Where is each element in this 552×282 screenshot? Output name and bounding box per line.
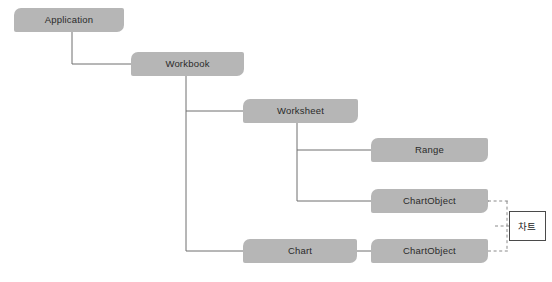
node-application[interactable]: Application — [14, 8, 124, 32]
node-range-label: Range — [415, 145, 444, 155]
node-application-label: Application — [45, 15, 94, 25]
node-workbook[interactable]: Workbook — [131, 52, 244, 76]
node-chart-label: Chart — [288, 246, 312, 256]
node-chartobject-1-label: ChartObject — [403, 196, 456, 206]
connector-application-workbook — [72, 32, 131, 64]
node-range[interactable]: Range — [371, 138, 488, 162]
node-chart[interactable]: Chart — [243, 239, 357, 263]
connector-worksheet-chartobject — [297, 123, 371, 201]
node-workbook-label: Workbook — [165, 59, 209, 69]
diagram-canvas: Application Workbook Worksheet Range Cha… — [0, 0, 552, 282]
connector-workbook-chart — [186, 76, 243, 251]
node-worksheet[interactable]: Worksheet — [243, 99, 358, 123]
node-chartobject-2[interactable]: ChartObject — [371, 239, 488, 263]
node-worksheet-label: Worksheet — [277, 106, 324, 116]
node-chartobject-2-label: ChartObject — [403, 246, 456, 256]
callout-chart-label: 차트 — [518, 219, 537, 233]
node-chartobject-1[interactable]: ChartObject — [371, 189, 488, 213]
callout-chart[interactable]: 차트 — [509, 211, 546, 241]
